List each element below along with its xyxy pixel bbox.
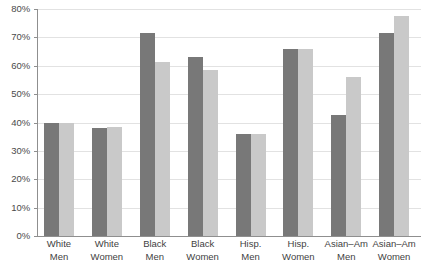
bar [155,62,170,237]
bar [251,134,266,236]
bar-group [188,9,218,236]
y-axis-tick-mark [34,37,38,38]
y-axis-tick-label: 20% [11,174,30,184]
y-axis-tick-mark [34,94,38,95]
bar [346,77,361,236]
x-axis: WhiteMenWhiteWomenBlackMenBlackWomenHisp… [38,238,421,265]
bar [283,49,298,236]
bar-group [92,9,122,236]
y-axis-tick-mark [34,66,38,67]
bar [394,16,409,236]
x-axis-tick-label-line1: Hisp. [240,238,262,249]
y-axis-tick-label: 40% [11,118,30,128]
bar [331,115,346,236]
bar-group [140,9,170,236]
bar [92,128,107,236]
y-axis-tick-label: 70% [11,32,30,42]
bar-group [283,9,313,236]
bar-group [379,9,409,236]
y-axis-tick-mark [34,151,38,152]
bar [188,57,203,236]
bar-chart: 0%10%20%30%40%50%60%70%80% WhiteMenWhite… [0,0,423,265]
x-axis-tick-label: Asian–AmWomen [364,238,423,263]
x-axis-tick-label-line1: Black [143,238,166,249]
y-axis-tick-label: 0% [16,231,30,241]
x-axis-tick-label-line1: Asian–Am [325,238,368,249]
x-axis-tick-label-line2: Women [364,251,423,264]
y-axis-tick-mark [34,208,38,209]
y-axis-tick-mark [34,236,38,237]
bar [107,127,122,236]
bar [236,134,251,236]
bar [203,70,218,236]
y-axis-tick-label: 50% [11,89,30,99]
y-axis-tick-label: 60% [11,61,30,71]
bar [44,123,59,237]
bar [140,33,155,236]
x-axis-line [37,236,421,237]
y-axis-tick-label: 30% [11,146,30,156]
bars-layer [38,9,421,236]
bar [379,33,394,236]
x-axis-tick-label-line1: White [95,238,119,249]
plot-area [38,9,421,236]
y-axis-tick-mark [34,9,38,10]
bar [59,123,74,237]
x-axis-tick-label-line1: Asian–Am [372,238,415,249]
y-axis-tick-label: 80% [11,4,30,14]
x-axis-tick-label-line1: White [47,238,71,249]
y-axis: 0%10%20%30%40%50%60%70%80% [0,0,34,265]
y-axis-tick-label: 10% [11,203,30,213]
x-axis-tick-label-line1: Black [191,238,214,249]
bar [298,49,313,236]
bar-group [236,9,266,236]
bar-group [44,9,74,236]
y-axis-tick-mark [34,179,38,180]
bar-group [331,9,361,236]
y-axis-tick-mark [34,123,38,124]
x-axis-tick-label-line1: Hisp. [288,238,310,249]
